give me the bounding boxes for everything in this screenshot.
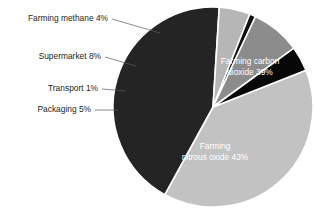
callout-label-farming-methane: Farming methane 4% — [28, 13, 109, 23]
slice-label-farming-nitrous-oxide-line2: nitrous oxide 43% — [182, 152, 249, 162]
slice-label-farming-nitrous-oxide-line1: Farming — [200, 141, 231, 151]
slice-label-farming-carbon-dioxide-line1: Farming carbon — [221, 56, 280, 66]
slice-label-farming-carbon-dioxide-line2: dioxide 39% — [227, 67, 273, 77]
callout-label-packaging: Packaging 5% — [37, 104, 91, 114]
callout-label-transport: Transport 1% — [48, 83, 99, 93]
pie-chart-figure: Farming methane 4% Supermarket 8% Transp… — [0, 0, 315, 216]
callout-label-supermarket: Supermarket 8% — [39, 51, 102, 61]
pie-chart-svg: Farming methane 4% Supermarket 8% Transp… — [0, 0, 315, 216]
